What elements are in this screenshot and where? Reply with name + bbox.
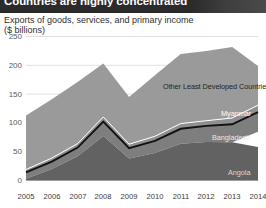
y-tick-0: 0: [0, 176, 22, 185]
stacked-area-svg: [0, 0, 266, 208]
x-tick-2014: 2014: [243, 192, 266, 201]
chart-figure: Countries are highly concentrated Export…: [0, 0, 266, 208]
y-tick-150: 150: [0, 90, 22, 99]
y-tick-100: 100: [0, 118, 22, 127]
series-label-bangladesh: Bangladesh: [212, 133, 250, 142]
plot-area: 250 200 150 100 50 0 2005 2006 2007 2008…: [0, 0, 266, 208]
y-tick-50: 50: [0, 147, 22, 156]
y-tick-250: 250: [0, 32, 22, 41]
series-label-other-ldc: Other Least Developed Countries: [163, 82, 266, 91]
series-label-myanmar: Myanmar: [221, 109, 251, 118]
series-label-angola: Angola: [228, 168, 250, 177]
y-tick-200: 200: [0, 61, 22, 70]
